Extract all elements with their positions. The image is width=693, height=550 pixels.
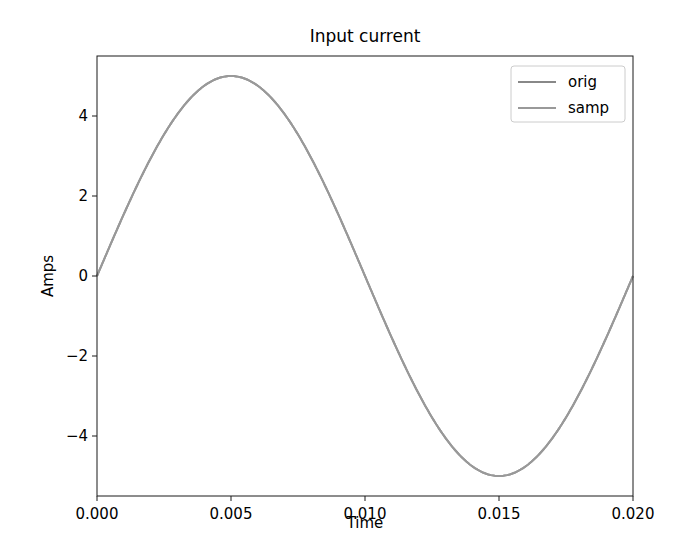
x-axis-label: Time — [346, 514, 384, 532]
y-tick-label: 2 — [78, 187, 88, 205]
y-tick-label: −4 — [66, 427, 88, 445]
legend: orig samp — [511, 66, 625, 122]
y-tick-label: −2 — [66, 347, 88, 365]
series-layer — [97, 76, 633, 476]
legend-label-samp: samp — [568, 99, 609, 117]
y-axis-label: Amps — [39, 255, 57, 297]
y-axis-ticks: −4−2024 — [66, 107, 97, 445]
x-tick-label: 0.000 — [76, 505, 119, 523]
x-tick-label: 0.005 — [210, 505, 253, 523]
x-tick-label: 0.020 — [612, 505, 655, 523]
x-tick-label: 0.015 — [478, 505, 521, 523]
legend-label-orig: orig — [568, 73, 597, 91]
series-line-samp — [97, 76, 633, 476]
chart-title: Input current — [310, 26, 421, 46]
chart: Input current 0.0000.0050.0100.0150.020 … — [0, 0, 693, 550]
y-tick-label: 4 — [78, 107, 88, 125]
y-tick-label: 0 — [78, 267, 88, 285]
